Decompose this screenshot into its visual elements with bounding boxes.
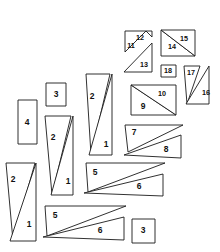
piece-label-11: 11 bbox=[127, 41, 135, 50]
piece-label-1: 1 bbox=[66, 176, 71, 186]
piece-label-14: 14 bbox=[168, 42, 176, 51]
piece-label-18: 18 bbox=[164, 66, 172, 75]
piece-label-2: 2 bbox=[11, 174, 16, 184]
piece-label-6: 6 bbox=[137, 181, 142, 191]
piece-label-17: 17 bbox=[187, 68, 195, 77]
piece-label-3: 3 bbox=[141, 225, 146, 235]
piece-label-7: 7 bbox=[132, 127, 137, 137]
piece-label-6: 6 bbox=[98, 225, 103, 235]
piece-label-4: 4 bbox=[25, 117, 30, 127]
piece-label-2: 2 bbox=[51, 132, 56, 142]
piece-label-1: 1 bbox=[27, 219, 32, 229]
piece-label-15: 15 bbox=[180, 34, 188, 43]
piece-label-9: 9 bbox=[141, 101, 146, 111]
piece-label-13: 13 bbox=[140, 60, 148, 69]
piece-label-8: 8 bbox=[164, 144, 169, 154]
piece-label-1: 1 bbox=[104, 139, 109, 149]
packing-diagram-canvas: 4332121217856569101112131415181716 bbox=[0, 0, 220, 252]
piece-label-16: 16 bbox=[202, 88, 210, 97]
piece-label-2: 2 bbox=[90, 91, 95, 101]
piece-label-3: 3 bbox=[54, 89, 59, 99]
piece-label-12: 12 bbox=[136, 33, 144, 42]
packing-diagram-svg: 4332121217856569101112131415181716 bbox=[0, 0, 220, 252]
piece-label-5: 5 bbox=[93, 167, 98, 177]
pieces-layer bbox=[6, 30, 209, 243]
piece-label-10: 10 bbox=[158, 89, 166, 98]
piece-12-triangle[interactable] bbox=[146, 31, 152, 37]
piece-label-5: 5 bbox=[53, 210, 58, 220]
